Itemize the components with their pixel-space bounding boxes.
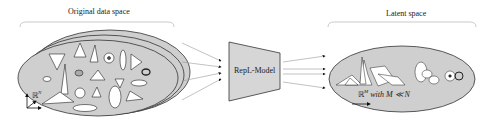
latent-space-bracket (328, 22, 476, 27)
original-data-space (18, 30, 190, 116)
latent-space-label: Latent space (386, 9, 426, 18)
output-arrows (283, 56, 325, 88)
original-dim-label: ℝN (32, 90, 41, 100)
model-label: RepL-Model (234, 66, 275, 75)
latent-dim-label: ℝM with M ≪ N (358, 89, 410, 99)
latent-space (329, 46, 475, 112)
diagram-canvas (0, 0, 492, 120)
original-space-bracket (20, 22, 174, 27)
original-dim-sup: N (38, 90, 41, 95)
original-space-label: Original data space (68, 7, 130, 16)
latent-dim-suffix: with M ≪ N (368, 90, 410, 99)
